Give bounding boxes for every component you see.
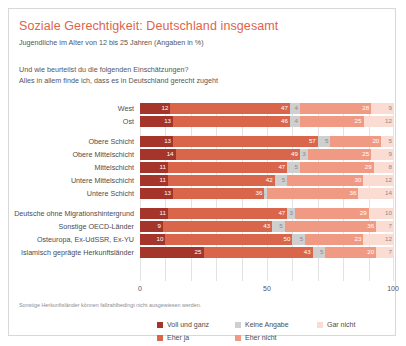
bar-segment-value: 36 [350,190,359,196]
bar-segment-voll-und-ganz[interactable]: 9 [140,221,163,232]
bar-row-label: Obere Schicht [88,136,140,147]
bar-segment-value: 13 [164,118,173,124]
bar-segment-voll-und-ganz[interactable]: 10 [140,234,165,245]
bar-segment-voll-und-ganz[interactable]: 25 [140,247,204,258]
bar-segment-gar-nicht[interactable]: 7 [376,221,394,232]
bar-row[interactable]: Untere Schicht133613614 [140,188,394,199]
legend-item[interactable]: Eher nicht [235,332,317,343]
bar-segment-keine-angabe[interactable]: 5 [292,234,305,245]
bar-row[interactable]: Islamisch geprägte Herkunftsländer254352… [140,247,394,258]
legend-item[interactable]: Voll und ganz [157,319,235,330]
bar-row-label: Untere Mittelschicht [71,175,140,186]
bar-segment-eher-nicht[interactable]: 23 [305,234,363,245]
bar-segment-eher-ja[interactable]: 47 [168,208,287,219]
bar-segment-value: 14 [385,190,394,196]
survey-question-line2: Alles in allem finde ich, dass es in Deu… [19,76,218,87]
row-spacer [140,201,394,208]
bar-segment-eher-nicht[interactable]: 25 [308,149,372,160]
bar-segment-value: 57 [309,138,318,144]
bar-segment-eher-ja[interactable]: 36 [173,188,264,199]
bar-row[interactable]: Mittelschicht11475298 [140,162,394,173]
bar-segment-eher-ja[interactable]: 46 [173,116,290,127]
bar-row[interactable]: Sonstige OECD-Länder9435367 [140,221,394,232]
bar-segment-voll-und-ganz[interactable]: 13 [140,136,173,147]
bar-segment-keine-angabe[interactable]: 3 [287,208,295,219]
bar-segment-voll-und-ganz[interactable]: 11 [140,175,168,186]
bar-row[interactable]: West12474289 [140,103,394,114]
legend-item[interactable]: Keine Angabe [235,319,317,330]
bar-row[interactable]: Untere Mittelschicht114253012 [140,175,394,186]
bar-segment-voll-und-ganz[interactable]: 13 [140,188,173,199]
legend-swatch-icon [317,322,323,328]
bar-segment-eher-ja[interactable]: 50 [165,234,292,245]
bar-segment-eher-ja[interactable]: 42 [168,175,275,186]
bar-segment-value: 12 [385,177,394,183]
legend-label: Voll und ganz [167,321,209,328]
bar-segment-value: 7 [389,249,394,255]
legend-item[interactable]: Eher ja [157,332,235,343]
legend-swatch-icon [235,322,241,328]
bar-segment-keine-angabe[interactable]: 3 [300,149,308,160]
bar-segment-eher-nicht[interactable]: 29 [295,208,369,219]
bar-row[interactable]: Obere Mittelschicht14493259 [140,149,394,160]
bar-segment-keine-angabe[interactable]: 4 [290,103,300,114]
bar-segment-value: 25 [362,151,371,157]
bar-segment-gar-nicht[interactable]: 12 [363,234,393,245]
bar-segment-eher-nicht[interactable]: 25 [300,116,364,127]
bar-row[interactable]: Osteuropa, Ex-UdSSR, Ex-YU105052312 [140,234,394,245]
bar-row[interactable]: Obere Schicht13575205 [140,136,394,147]
bar-segment-value: 28 [362,105,371,111]
bar-row[interactable]: Ost134642512 [140,116,394,127]
bar-segment-value: 10 [157,236,166,242]
bar-segment-eher-nicht[interactable]: 20 [330,136,381,147]
bar-segment-eher-nicht[interactable]: 20 [325,247,376,258]
bar-segment-value: 8 [389,164,394,170]
bar-segment-gar-nicht[interactable]: 14 [358,188,394,199]
bar-segment-voll-und-ganz[interactable]: 11 [140,162,168,173]
bar-segment-eher-nicht[interactable]: 30 [287,175,363,186]
bar-segment-value: 50 [284,236,293,242]
bar-segment-gar-nicht[interactable]: 5 [381,136,394,147]
bar-segment-keine-angabe[interactable]: 5 [275,175,288,186]
bar-segment-eher-ja[interactable]: 43 [204,247,313,258]
bar-row[interactable]: Deutsche ohne Migrationshintergrund11473… [140,208,394,219]
bar-segment-value: 29 [360,210,369,216]
bar-segment-voll-und-ganz[interactable]: 12 [140,103,170,114]
chart-footnote: Sonstige Herkunftsländer können fallzahl… [19,302,201,308]
bar-segment-eher-ja[interactable]: 43 [163,221,272,232]
bar-segment-gar-nicht[interactable]: 9 [371,103,394,114]
bar-segment-voll-und-ganz[interactable]: 11 [140,208,168,219]
bar-segment-voll-und-ganz[interactable]: 13 [140,116,173,127]
bar-segment-value: 14 [167,151,176,157]
bar-segment-value: 23 [355,236,364,242]
bar-segment-gar-nicht[interactable]: 9 [371,149,394,160]
bar-segment-eher-ja[interactable]: 49 [176,149,300,160]
bar-segment-eher-nicht[interactable]: 28 [300,103,371,114]
bar-segment-gar-nicht[interactable]: 7 [376,247,394,258]
bar-segment-eher-nicht[interactable]: 36 [285,221,376,232]
bar-segment-value: 36 [367,223,376,229]
bar-segment-keine-angabe[interactable]: 5 [272,221,285,232]
bar-segment-value: 25 [195,249,204,255]
bar-segment-eher-ja[interactable]: 47 [168,162,287,173]
bar-segment-value: 43 [263,223,272,229]
bar-segment-eher-nicht[interactable]: 29 [300,162,374,173]
bar-segment-gar-nicht[interactable]: 10 [369,208,394,219]
bar-segment-keine-angabe[interactable]: 5 [287,162,300,173]
legend-item[interactable]: Gar nicht [317,319,397,330]
bar-segment-keine-angabe[interactable]: 4 [290,116,300,127]
bar-segment-keine-angabe[interactable]: 5 [318,136,331,147]
bar-row-label: Untere Schicht [87,188,140,199]
bar-segment-value: 29 [365,164,374,170]
bar-segment-gar-nicht[interactable]: 12 [363,175,393,186]
bar-segment-gar-nicht[interactable]: 12 [364,116,394,127]
bar-segment-eher-nicht[interactable]: 36 [267,188,358,199]
bar-segment-gar-nicht[interactable]: 8 [374,162,394,173]
x-tick-50: 50 [263,285,271,292]
bar-segment-eher-ja[interactable]: 47 [170,103,289,114]
bar-segment-voll-und-ganz[interactable]: 14 [140,149,176,160]
bar-segment-keine-angabe[interactable]: 5 [313,247,326,258]
bar-row-label: Ost [123,116,140,127]
legend-label: Gar nicht [327,321,355,328]
bar-segment-eher-ja[interactable]: 57 [173,136,318,147]
